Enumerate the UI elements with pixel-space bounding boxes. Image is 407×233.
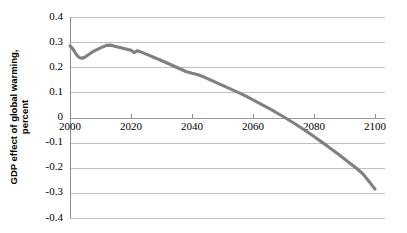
data-series-line — [70, 45, 375, 189]
x-tick-label: 2040 — [181, 120, 204, 132]
x-tick-label: 2000 — [59, 120, 82, 132]
chart-container: GDP effect of global warming, percent 0.… — [0, 0, 407, 233]
y-tick-label: 0.2 — [49, 60, 63, 72]
y-tick-label: -0.2 — [46, 160, 63, 172]
x-axis-tick-labels: 200020202040206020802100 — [59, 120, 387, 132]
y-tick-label: -0.3 — [46, 185, 64, 197]
plot-area: 0.40.30.20.10-0.1-0.2-0.3-0.4 2000202020… — [0, 0, 407, 233]
y-tick-label: 0.3 — [49, 35, 63, 47]
x-tick-label: 2060 — [242, 120, 265, 132]
x-tick-label: 2100 — [364, 120, 387, 132]
y-tick-label: 0.4 — [49, 10, 63, 22]
y-axis-tick-labels: 0.40.30.20.10-0.1-0.2-0.3-0.4 — [46, 10, 64, 223]
y-tick-label: 0.1 — [49, 85, 63, 97]
tick-marks — [71, 114, 376, 118]
x-tick-label: 2020 — [120, 120, 143, 132]
y-tick-label: -0.1 — [46, 135, 63, 147]
y-tick-label: -0.4 — [46, 211, 64, 223]
